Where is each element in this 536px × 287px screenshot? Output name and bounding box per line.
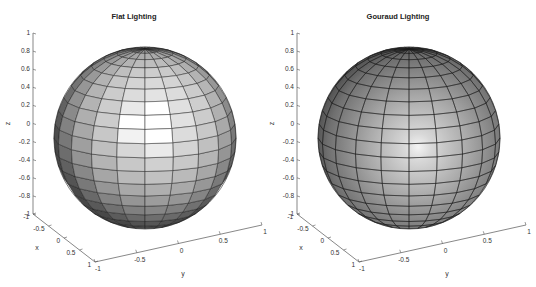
plot-gouraud-lighting: Gouraud Lighting -1-0.8-0.6-0.4-0.200.20… [264, 0, 532, 287]
z-tick-label: -0.2 [283, 138, 295, 145]
z-tick-label: 0.2 [285, 101, 294, 108]
sphere-face [117, 157, 145, 172]
y-tick-label: 0 [444, 247, 448, 254]
z-tick-label: 1 [26, 29, 30, 36]
x-tick-label: 1 [351, 261, 355, 268]
x-tick-label: -0.5 [297, 225, 309, 232]
y-tick-label: 1 [527, 228, 531, 235]
sphere-face [145, 89, 168, 102]
z-tick-label: 0.6 [21, 65, 30, 72]
z-tick-label: 0.8 [21, 47, 30, 54]
sphere-face [118, 183, 145, 196]
z-tick-label: 0.6 [285, 65, 294, 72]
sphere-face [145, 77, 165, 89]
x-tick-label: 0 [320, 237, 324, 244]
x-axis-label: x [299, 244, 303, 251]
sphere-face [117, 171, 145, 185]
sphere-face [120, 101, 145, 115]
plot-flat-lighting: Flat Lighting -1-0.8-0.6-0.4-0.200.20.40… [0, 0, 268, 287]
sphere-face [145, 157, 173, 172]
sphere-face [145, 183, 172, 196]
z-axis-label: z [268, 121, 275, 125]
sphere-face [122, 89, 145, 102]
x-tick-label: 0.5 [66, 249, 75, 256]
z-tick-label: 0 [26, 120, 30, 127]
z-tick-label: -0.4 [19, 156, 31, 163]
y-tick-label: -1 [359, 265, 365, 272]
sphere-face [145, 115, 172, 130]
z-tick-label: -0.6 [283, 174, 295, 181]
x-tick-label: -1 [23, 213, 29, 220]
y-tick-label: -0.5 [398, 256, 410, 263]
axes-3d: -1-0.8-0.6-0.4-0.200.20.40.60.81z-1-0.50… [264, 0, 532, 287]
z-axis-label: z [4, 121, 11, 125]
z-tick-label: 0.2 [21, 101, 30, 108]
sphere-face [122, 205, 145, 214]
y-tick-label: -1 [95, 265, 101, 272]
sphere-face [92, 126, 118, 143]
x-tick-label: 0.5 [330, 249, 339, 256]
sphere-surface [318, 47, 500, 229]
z-tick-label: -0.8 [283, 192, 295, 199]
z-tick-label: -0.4 [283, 156, 295, 163]
sphere-face [125, 214, 145, 221]
x-tick-label: 1 [87, 261, 91, 268]
z-tick-label: -0.2 [19, 138, 31, 145]
z-tick-label: 0.4 [285, 83, 294, 90]
z-tick-label: 0.4 [21, 83, 30, 90]
y-tick-label: 0 [180, 247, 184, 254]
sphere-face [145, 129, 173, 144]
sphere-surface [54, 47, 236, 229]
sphere-face [145, 195, 170, 206]
z-tick-label: 0.8 [285, 47, 294, 54]
sphere-face [172, 126, 198, 143]
x-axis-label: x [35, 244, 39, 251]
z-tick-label: 1 [290, 29, 294, 36]
x-tick-label: -0.5 [33, 225, 45, 232]
sphere-face [145, 214, 165, 221]
y-axis-label: y [445, 270, 449, 278]
sphere-face [145, 101, 170, 115]
sphere-face [145, 205, 168, 214]
z-tick-label: 0 [290, 120, 294, 127]
sphere-face [145, 143, 173, 158]
sphere-face [117, 129, 145, 144]
y-tick-label: 0.5 [483, 237, 492, 244]
z-tick-label: -0.8 [19, 192, 31, 199]
sphere-face [118, 115, 145, 130]
y-axis-label: y [181, 270, 185, 278]
sphere-face [117, 143, 145, 158]
z-tick-label: -0.6 [19, 174, 31, 181]
axes-3d: -1-0.8-0.6-0.4-0.200.20.40.60.81z-1-0.50… [0, 0, 268, 287]
sphere-face [120, 195, 145, 206]
sphere-face [145, 171, 173, 185]
y-tick-label: -0.5 [134, 256, 146, 263]
y-tick-label: 0.5 [219, 237, 228, 244]
x-tick-label: 0 [56, 237, 60, 244]
x-tick-label: -1 [287, 213, 293, 220]
sphere-face [125, 77, 145, 89]
